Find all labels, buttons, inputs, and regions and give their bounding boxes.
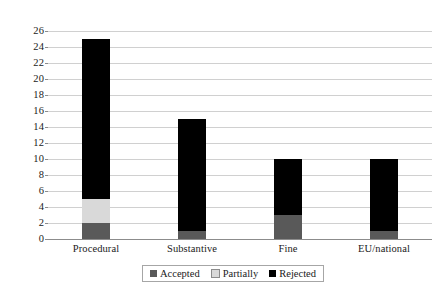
y-axis-tick-label: 16 [10,106,44,116]
y-axis-tick-label: 24 [10,42,44,52]
y-axis-tick-label: 6 [10,186,44,196]
legend-item[interactable]: Accepted [150,268,200,279]
y-axis-tick-label: 4 [10,202,44,212]
legend-label: Partially [223,268,259,279]
y-axis-tick-label: 2 [10,218,44,228]
bar-segment-partially [82,199,110,223]
chart-legend: AcceptedPartiallyRejected [142,265,324,282]
y-axis-tick-label: 26 [10,26,44,36]
legend-item[interactable]: Partially [211,268,259,279]
stacked-bar-chart: 26242220181614121086420 ProceduralSubsta… [0,0,446,299]
y-axis-tick-label: 8 [10,170,44,180]
legend-swatch-icon [269,270,276,277]
legend-swatch-icon [150,270,157,277]
bar-segment-accepted [274,215,302,239]
bar-column [82,31,110,239]
x-axis-tick-label: EU/national [336,243,432,255]
bar-segment-accepted [82,223,110,239]
x-axis-tick-label: Fine [240,243,336,255]
axis-baseline [48,239,432,240]
bar-segment-accepted [178,231,206,239]
legend-swatch-icon [211,269,220,278]
y-axis-tick-label: 0 [10,234,44,244]
x-axis-tick-label: Procedural [48,243,144,255]
bar-segment-rejected [370,159,398,231]
bar-segment-rejected [274,159,302,215]
bar-segment-rejected [178,119,206,231]
legend-label: Rejected [279,268,316,279]
x-axis-tick-label: Substantive [144,243,240,255]
y-axis-tick-label: 10 [10,154,44,164]
x-axis: ProceduralSubstantiveFineEU/national [48,241,432,259]
y-axis-tick-label: 20 [10,74,44,84]
y-axis-tick-label: 14 [10,122,44,132]
legend-label: Accepted [160,268,200,279]
y-axis-tick-label: 12 [10,138,44,148]
bar-column [274,31,302,239]
y-axis-tick-label: 18 [10,90,44,100]
legend-item[interactable]: Rejected [269,268,316,279]
bar-column [370,31,398,239]
bar-segment-accepted [370,231,398,239]
bar-column [178,31,206,239]
bar-segment-rejected [82,39,110,199]
y-axis: 26242220181614121086420 [0,31,44,239]
plot-area [48,31,432,239]
y-axis-tick-label: 22 [10,58,44,68]
